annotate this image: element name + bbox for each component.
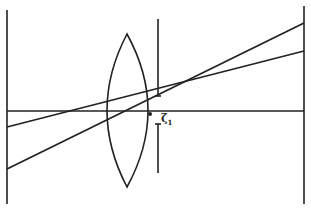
ray-diagram-canvas bbox=[0, 0, 311, 212]
focal-point-dot bbox=[148, 112, 152, 116]
ray-upper bbox=[7, 51, 304, 127]
zeta-one-label: ζ1 bbox=[161, 113, 172, 126]
zeta-subscript: 1 bbox=[168, 118, 173, 127]
optics-diagram: ζ1 bbox=[0, 0, 311, 212]
